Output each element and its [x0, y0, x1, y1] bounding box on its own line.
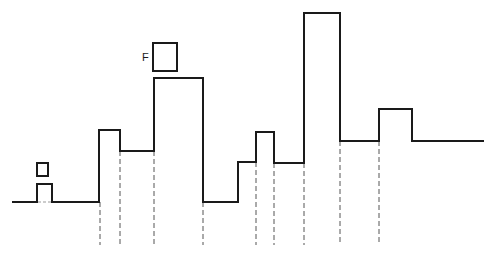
f-square-marker	[153, 43, 177, 71]
dashed-projection-lines	[100, 141, 379, 245]
step-waveform-diagram: F	[0, 0, 492, 258]
small-square-marker	[37, 163, 48, 176]
step-waveform	[12, 13, 484, 202]
f-label: F	[142, 51, 149, 63]
